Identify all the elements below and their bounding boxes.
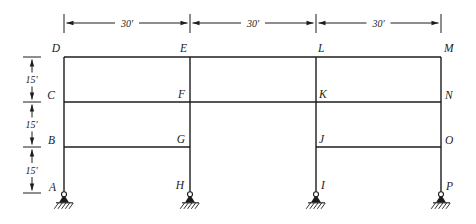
node-label-N: N <box>444 89 454 101</box>
dimension-arrow-down <box>30 93 34 100</box>
pin-support-I <box>306 192 325 209</box>
span-dimension-label-1: 30′ <box>120 18 134 29</box>
node-label-G: G <box>177 133 186 145</box>
support-pin-circle <box>439 192 444 197</box>
left-dimension-line: 15′ 15′ 15′ <box>23 57 41 193</box>
dimension-arrow-up <box>30 60 34 67</box>
dimension-arrow-right <box>181 21 188 26</box>
dimension-arrow-up <box>30 105 34 112</box>
span-dimension-1: 30′ <box>67 18 188 29</box>
pin-support-A <box>54 192 73 209</box>
height-dimension-1: 15′ <box>25 60 38 100</box>
frame-members <box>64 57 441 193</box>
node-label-P: P <box>445 180 453 192</box>
dimension-arrow-up <box>30 150 34 157</box>
span-dimension-3: 30′ <box>319 18 439 29</box>
height-dimension-3: 15′ <box>25 150 38 191</box>
pin-support-P <box>431 192 450 209</box>
node-label-M: M <box>443 42 455 54</box>
node-label-D: D <box>51 42 61 54</box>
dimension-arrow-left <box>67 21 74 26</box>
span-dimension-2: 30′ <box>193 18 314 29</box>
node-label-O: O <box>445 134 454 146</box>
height-dimension-label-3: 15′ <box>25 165 38 176</box>
top-dimension-line: 30′ 30′ 30′ <box>64 14 441 33</box>
dimension-arrow-left <box>319 21 326 26</box>
dimension-arrow-right <box>432 21 439 26</box>
node-label-F: F <box>177 88 186 100</box>
support-hatching <box>54 203 73 209</box>
frame-elevation-diagram: 30′ 30′ 30′ 15′ <box>0 0 476 224</box>
node-labels: D E L M C F K N B G J O A H I P <box>47 42 455 193</box>
support-hatching <box>431 203 450 209</box>
node-label-I: I <box>320 179 326 191</box>
dimension-arrow-down <box>30 184 34 191</box>
node-label-L: L <box>317 42 324 54</box>
support-pin-circle <box>188 192 193 197</box>
node-label-H: H <box>175 179 185 191</box>
node-label-E: E <box>179 42 187 54</box>
support-pin-circle <box>62 192 67 197</box>
node-label-J: J <box>319 133 325 145</box>
node-label-C: C <box>47 89 55 101</box>
height-dimension-2: 15′ <box>25 105 38 145</box>
height-dimension-label-1: 15′ <box>25 74 38 85</box>
dimension-arrow-down <box>30 138 34 145</box>
dimension-arrow-left <box>193 21 200 26</box>
support-hatching <box>180 203 199 209</box>
node-label-B: B <box>48 134 55 146</box>
support-hatching <box>306 203 325 209</box>
span-dimension-label-2: 30′ <box>246 18 260 29</box>
dimension-arrow-right <box>307 21 314 26</box>
pin-support-H <box>180 192 199 209</box>
span-dimension-label-3: 30′ <box>371 18 385 29</box>
node-label-A: A <box>48 181 57 193</box>
support-pin-circle <box>314 192 319 197</box>
node-label-K: K <box>318 88 328 100</box>
height-dimension-label-2: 15′ <box>25 119 38 130</box>
